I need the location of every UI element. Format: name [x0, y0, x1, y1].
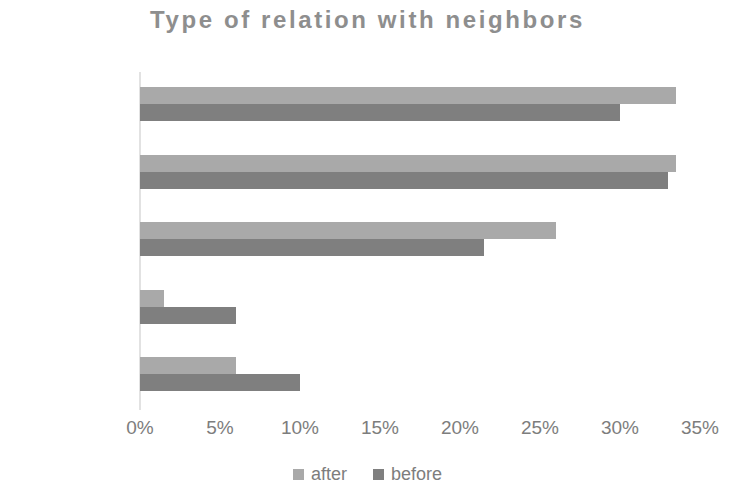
bar-group	[140, 275, 700, 343]
bar-after-good[interactable]	[140, 155, 676, 172]
bar-group	[140, 72, 700, 140]
x-axis-tick-label: 25%	[500, 417, 580, 439]
bar-group	[140, 140, 700, 208]
legend-swatch-icon	[373, 469, 384, 480]
legend-swatch-icon	[293, 469, 304, 480]
legend-item-after[interactable]: after	[293, 464, 347, 485]
bar-before-no-relation[interactable]	[140, 374, 300, 391]
bar-group	[140, 342, 700, 410]
bar-before-hardly-talk[interactable]	[140, 307, 236, 324]
legend-item-before[interactable]: before	[373, 464, 442, 485]
bar-after-close[interactable]	[140, 87, 676, 104]
bar-before-good[interactable]	[140, 172, 668, 189]
x-axis-tick-label: 30%	[580, 417, 660, 439]
x-axis-tick-label: 20%	[420, 417, 500, 439]
chart-legend: afterbefore	[0, 464, 735, 485]
chart-title: Type of relation with neighbors	[0, 6, 735, 34]
x-axis-tick-label: 35%	[660, 417, 735, 439]
bar-after-hardly-talk[interactable]	[140, 290, 164, 307]
bar-chart: Type of relation with neighbors closegoo…	[0, 0, 735, 494]
x-axis-tick-label: 10%	[260, 417, 340, 439]
x-axis-tick-label: 0%	[100, 417, 180, 439]
bar-before-formal[interactable]	[140, 239, 484, 256]
bar-before-close[interactable]	[140, 104, 620, 121]
bar-after-formal[interactable]	[140, 222, 556, 239]
x-axis-tick-label: 15%	[340, 417, 420, 439]
plot-area: closegoodformalhardly talkno relation0%5…	[140, 72, 700, 410]
bar-after-no-relation[interactable]	[140, 357, 236, 374]
bar-group	[140, 207, 700, 275]
legend-label: before	[391, 464, 442, 485]
legend-label: after	[311, 464, 347, 485]
x-axis-tick-label: 5%	[180, 417, 260, 439]
